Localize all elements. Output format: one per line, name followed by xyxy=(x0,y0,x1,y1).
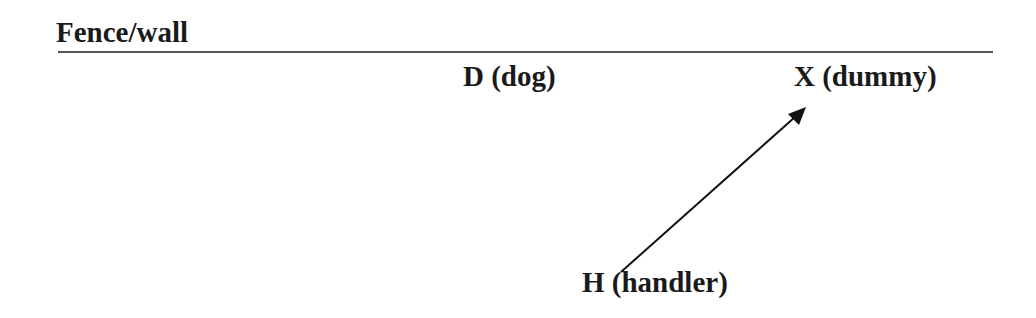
handler-to-dummy-arrow-shaft xyxy=(621,117,795,272)
arrowhead-icon xyxy=(788,107,806,125)
fence-wall-label: Fence/wall xyxy=(56,18,188,47)
handler-label: H (handler) xyxy=(582,268,728,297)
dog-label: D (dog) xyxy=(463,62,556,91)
dummy-label: X (dummy) xyxy=(794,62,937,91)
